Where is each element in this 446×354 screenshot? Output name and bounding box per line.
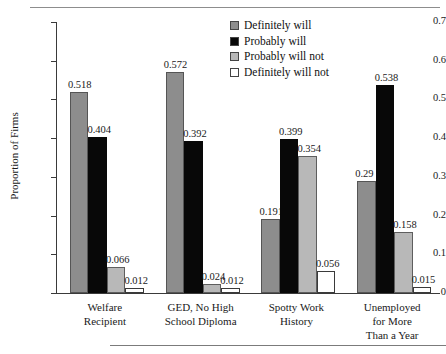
y-tick-label: 0.4 <box>402 132 446 142</box>
x-category-line: Unemployed <box>338 300 446 314</box>
x-category-line: Welfare <box>51 300 159 314</box>
x-category-line: History <box>243 314 351 328</box>
legend-label: Definitely will not <box>244 65 329 80</box>
x-category-label: Unemployedfor MoreThan a Year <box>338 300 446 342</box>
y-tick-mark <box>51 177 56 178</box>
bar-value-label: 0.392 <box>183 128 207 139</box>
bar-value-label: 0.015 <box>412 274 436 285</box>
x-category-line: School Diploma <box>147 314 255 328</box>
bar <box>376 85 395 293</box>
bar-value-label: 0.29 <box>355 168 373 179</box>
bar-chart: 0.70.60.50.40.30.20.10 Proportion of Fir… <box>0 0 446 354</box>
bar-value-label: 0.404 <box>87 124 111 135</box>
legend-swatch-icon <box>230 52 239 61</box>
chart-page: 0.70.60.50.40.30.20.10 Proportion of Fir… <box>0 0 446 354</box>
y-tick-label: 0.5 <box>402 93 446 103</box>
bar <box>280 139 299 293</box>
bar-value-label: 0.572 <box>164 59 188 70</box>
legend-swatch-icon <box>230 68 239 77</box>
x-category-line: Recipient <box>51 314 159 328</box>
bar-value-label: 0.538 <box>375 72 399 83</box>
x-category-label: Spotty WorkHistory <box>243 300 351 328</box>
bar <box>70 92 89 293</box>
y-tick-mark <box>51 138 56 139</box>
bar-value-label: 0.158 <box>393 219 417 230</box>
y-axis-line <box>56 22 57 293</box>
bar-value-label: 0.012 <box>124 275 148 286</box>
bar-value-label: 0.066 <box>106 254 130 265</box>
bar-value-label: 0.012 <box>220 275 244 286</box>
bar-value-label: 0.056 <box>316 258 340 269</box>
bar <box>317 271 336 293</box>
bar <box>184 141 203 293</box>
y-tick-label: 0.6 <box>402 55 446 65</box>
bar <box>413 287 432 293</box>
legend-label: Definitely will <box>244 18 311 33</box>
y-tick-mark <box>51 293 56 294</box>
legend-label: Probably will <box>244 34 306 49</box>
y-tick-mark <box>51 22 56 23</box>
y-tick-mark <box>51 99 56 100</box>
x-category-line: GED, No High <box>147 300 255 314</box>
y-tick-mark <box>51 254 56 255</box>
bar <box>166 72 185 293</box>
legend-swatch-icon <box>230 21 239 30</box>
bar <box>88 137 107 293</box>
x-category-line: Spotty Work <box>243 300 351 314</box>
x-category-line: Than a Year <box>338 328 446 342</box>
x-axis-line <box>56 293 440 294</box>
legend-label: Probably will not <box>244 49 324 64</box>
y-axis-label: Proportion of Firms <box>8 76 20 236</box>
bar <box>125 288 144 293</box>
bar <box>298 156 317 293</box>
bar <box>261 219 280 293</box>
y-tick-mark <box>51 61 56 62</box>
bar-value-label: 0.399 <box>279 126 303 137</box>
bar <box>221 288 240 293</box>
bar <box>357 181 376 293</box>
x-category-line: for More <box>338 314 446 328</box>
bar <box>107 267 126 293</box>
bar <box>203 284 222 293</box>
y-tick-label: 0.7 <box>402 16 446 26</box>
bar-value-label: 0.354 <box>297 143 321 154</box>
y-tick-label: 0.3 <box>402 171 446 181</box>
x-category-label: WelfareRecipient <box>51 300 159 328</box>
bar-value-label: 0.518 <box>68 79 92 90</box>
x-category-label: GED, No HighSchool Diploma <box>147 300 255 328</box>
legend-swatch-icon <box>230 37 239 46</box>
y-tick-mark <box>51 216 56 217</box>
bar <box>394 232 413 293</box>
